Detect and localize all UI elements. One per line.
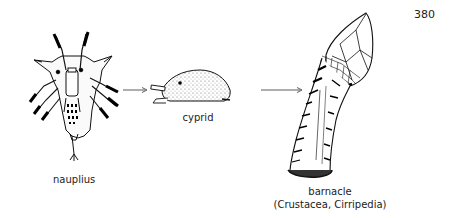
barnacle-label: barnacle	[300, 186, 360, 198]
barnacle-illustration	[288, 13, 373, 177]
cyprid-illustration	[151, 70, 230, 103]
arrow-cyprid-to-barnacle	[261, 88, 302, 93]
nauplius-illustration	[30, 32, 118, 161]
cyprid-label: cyprid	[178, 112, 218, 124]
nauplius-label: nauplius	[53, 174, 93, 186]
arrow-nauplius-to-cyprid	[123, 88, 147, 93]
barnacle-taxonomy-label: (Crustacea, Cirripedia)	[270, 199, 390, 211]
